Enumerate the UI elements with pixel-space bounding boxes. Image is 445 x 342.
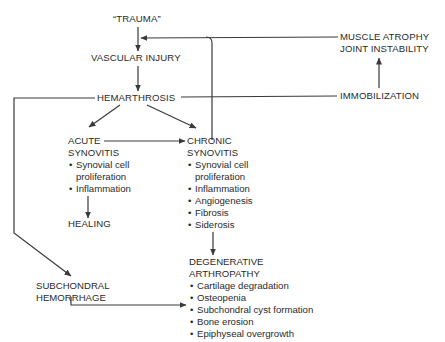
- chronic-title-1: CHRONIC: [187, 135, 253, 147]
- node-joint-instability: JOINT INSTABILITY: [340, 43, 429, 55]
- node-healing: HEALING: [68, 218, 111, 230]
- degen-item: Cartilage degradation: [189, 280, 313, 292]
- arrow-muscle-atrophy-to-vascular: [141, 37, 338, 38]
- acute-item: Inflammation: [68, 183, 131, 195]
- arrow-hemarthrosis-to-chronic: [147, 105, 196, 128]
- node-acute-synovitis: ACUTE SYNOVITIS Synovial cellproliferati…: [68, 135, 131, 195]
- node-degenerative-arthropathy: DEGENERATIVE ARTHROPATHY Cartilage degra…: [189, 256, 313, 340]
- node-immobilization: IMMOBILIZATION: [340, 90, 419, 102]
- chronic-item: Siderosis: [187, 219, 253, 231]
- degen-item: Subchondral cyst formation: [189, 304, 313, 316]
- degen-item: Epiphyseal overgrowth: [189, 328, 313, 340]
- node-vascular-injury: VASCULAR INJURY: [91, 52, 181, 64]
- chronic-item: Inflammation: [187, 183, 253, 195]
- chronic-item: Angiogenesis: [187, 195, 253, 207]
- line-hemarthrosis-to-immobilization: [181, 96, 337, 97]
- degen-title-1: DEGENERATIVE: [189, 256, 313, 268]
- node-hemarthrosis: HEMARTHROSIS: [97, 92, 175, 104]
- chronic-title-2: SYNOVITIS: [187, 147, 253, 159]
- arrow-hemarthrosis-to-acute: [89, 105, 120, 127]
- node-muscle-atrophy: MUSCLE ATROPHY: [340, 31, 429, 43]
- chronic-item: Synovial cellproliferation: [187, 159, 253, 183]
- node-trauma: “TRAUMA”: [113, 13, 161, 25]
- chronic-item: Fibrosis: [187, 207, 253, 219]
- node-chronic-synovitis: CHRONIC SYNOVITIS Synovial cellprolifera…: [187, 135, 253, 231]
- acute-title-1: ACUTE: [68, 135, 131, 147]
- degen-item: Bone erosion: [189, 316, 313, 328]
- degen-item: Osteopenia: [189, 292, 313, 304]
- degen-title-2: ARTHROPATHY: [189, 268, 313, 280]
- acute-title-2: SYNOVITIS: [68, 147, 131, 159]
- acute-item: Synovial cellproliferation: [68, 159, 131, 183]
- node-subchondral-hemorrhage: SUBCHONDRAL HEMORRHAGE: [36, 280, 110, 304]
- line-chronic-feedback: [206, 37, 212, 140]
